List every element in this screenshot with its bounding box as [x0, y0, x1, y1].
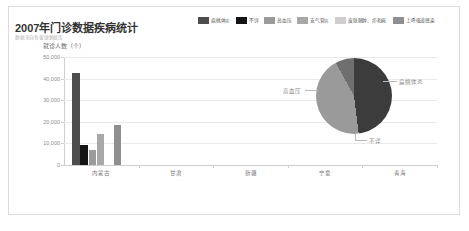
bar[interactable] — [114, 125, 122, 165]
gridline — [64, 165, 437, 166]
x-axis-tick-label: 新疆 — [245, 169, 257, 177]
x-axis-tick-mark — [288, 165, 289, 168]
legend-swatch-icon — [236, 17, 247, 24]
legend-swatch-icon — [198, 17, 209, 24]
legend-item[interactable]: 皮肤脓肿、疖和痈 — [335, 17, 388, 24]
legend-label: 支气管炎 — [310, 17, 329, 24]
legend-label: 扁桃体炎 — [211, 17, 230, 24]
pie-chart — [316, 58, 392, 134]
bar[interactable] — [80, 145, 88, 165]
pie-slices — [316, 58, 392, 134]
legend-item[interactable]: 扁桃体炎 — [198, 17, 231, 24]
pie-leader-right — [383, 81, 397, 82]
timeline-control[interactable]: ⟨ ⟩ 2007200820092010201120122013 — [0, 186, 469, 216]
pie-label-left: 高血压 — [283, 87, 301, 95]
chart-legend: 扁桃体炎不详高血压支气管炎皮肤脓肿、疖和痈上呼吸道感染 — [198, 17, 436, 24]
y-axis-tick-label: 10,000 — [43, 140, 60, 146]
pie-label-right: 扁桃体炎 — [399, 78, 423, 86]
y-axis-tick-mark — [61, 143, 64, 144]
x-axis-tick-mark — [437, 165, 438, 168]
pie-label-bottom: 不详 — [369, 137, 381, 145]
bar[interactable] — [72, 73, 80, 165]
y-axis-tick-label: 50,000 — [43, 54, 60, 60]
y-axis-title: 就诊人数（个） — [43, 41, 85, 50]
y-axis-tick-mark — [61, 79, 64, 80]
x-axis-tick-label: 宁夏 — [319, 169, 331, 177]
bar[interactable] — [97, 134, 105, 165]
y-axis-tick-mark — [61, 100, 64, 101]
bar[interactable] — [89, 150, 97, 165]
y-axis-tick-mark — [61, 122, 64, 123]
legend-label: 不详 — [249, 17, 259, 24]
legend-item[interactable]: 上呼吸道感染 — [393, 17, 436, 24]
y-axis-tick-label: 30,000 — [43, 97, 60, 103]
legend-swatch-icon — [264, 17, 275, 24]
legend-swatch-icon — [297, 17, 308, 24]
x-axis-tick-label: 甘肃 — [170, 169, 182, 177]
y-axis-tick-mark — [61, 165, 64, 166]
legend-swatch-icon — [335, 17, 346, 24]
x-axis-tick-mark — [139, 165, 140, 168]
page-subtitle: 数据来自各省便数据库 — [15, 33, 63, 40]
x-axis-tick-mark — [362, 165, 363, 168]
legend-item[interactable]: 高血压 — [264, 17, 292, 24]
legend-label: 皮肤脓肿、疖和痈 — [348, 17, 386, 24]
chart-screenshot: 2007年门诊数据疾病统计 数据来自各省便数据库 扁桃体炎不详高血压支气管炎皮肤… — [0, 0, 469, 231]
x-axis-tick-label: 青海 — [394, 169, 406, 177]
pie-leader-bottom2 — [355, 140, 367, 141]
x-axis-tick-label: 内蒙古 — [92, 169, 110, 177]
legend-label: 上呼吸道感染 — [406, 17, 435, 24]
legend-swatch-icon — [393, 17, 404, 24]
legend-item[interactable]: 不详 — [236, 17, 259, 24]
y-axis-tick-mark — [61, 57, 64, 58]
legend-item[interactable]: 支气管炎 — [297, 17, 330, 24]
pie-leader-left — [305, 90, 318, 91]
y-axis-tick-label: 40,000 — [43, 76, 60, 82]
legend-label: 高血压 — [277, 17, 291, 24]
y-axis-tick-label: 0 — [57, 162, 60, 168]
x-axis-tick-mark — [213, 165, 214, 168]
y-axis-tick-label: 20,000 — [43, 119, 60, 125]
